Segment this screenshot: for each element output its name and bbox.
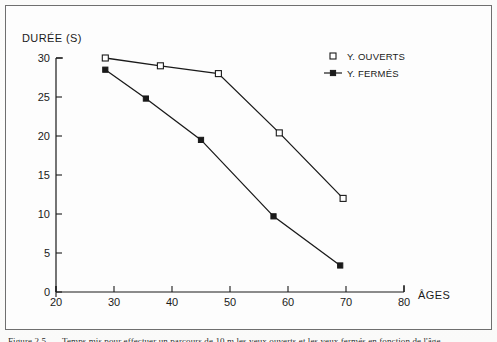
data-series-layer <box>102 55 346 268</box>
x-tick-label: 40 <box>166 296 178 308</box>
x-tick-label: 70 <box>340 296 352 308</box>
data-point-open-square <box>340 195 346 201</box>
data-point-open-square <box>276 130 282 136</box>
series-line <box>105 70 340 266</box>
data-point-open-square <box>102 55 108 61</box>
legend-label: Y. OUVERTS <box>347 51 405 62</box>
data-point-filled-square <box>198 137 203 142</box>
y-tick-label: 10 <box>38 208 50 220</box>
x-tick-label: 20 <box>50 296 62 308</box>
data-point-filled-square <box>103 67 108 72</box>
y-axis-ticks: 051015202530 <box>38 52 62 298</box>
data-point-open-square <box>215 71 221 77</box>
y-tick-label: 5 <box>44 247 50 259</box>
series-y-ouverts <box>102 55 346 201</box>
y-axis-title: DURÉE (S) <box>22 32 82 44</box>
data-point-filled-square <box>338 263 343 268</box>
data-point-open-square <box>157 63 163 69</box>
y-tick-label: 20 <box>38 130 50 142</box>
data-point-filled-square <box>271 214 276 219</box>
x-tick-label: 50 <box>224 296 236 308</box>
x-axis-ticks: 20304050607080 <box>50 286 410 308</box>
x-tick-label: 60 <box>282 296 294 308</box>
series-y-fermes <box>103 67 343 268</box>
legend-marker-open-square <box>330 53 336 59</box>
data-point-filled-square <box>143 96 148 101</box>
x-tick-label: 80 <box>398 296 410 308</box>
y-tick-label: 15 <box>38 169 50 181</box>
figure-caption: Figure 2.5. — Temps mis pour effectuer u… <box>8 337 490 342</box>
legend-marker-filled-square <box>330 70 335 75</box>
chart-legend: Y. OUVERTSY. FERMÉS <box>324 51 405 79</box>
x-tick-label: 30 <box>108 296 120 308</box>
chart-canvas: DURÉE (S) ÂGES 051015202530 203040506070… <box>0 0 497 342</box>
y-tick-label: 30 <box>38 52 50 64</box>
y-tick-label: 25 <box>38 91 50 103</box>
legend-label: Y. FERMÉS <box>347 68 399 79</box>
x-axis-title: ÂGES <box>418 289 450 301</box>
series-line <box>105 58 343 198</box>
